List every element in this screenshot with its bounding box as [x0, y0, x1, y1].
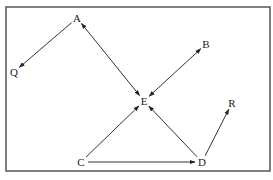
diagram-frame [6, 7, 270, 171]
edge-d-r [205, 109, 229, 156]
node-q: Q [10, 66, 18, 78]
edge-a-q [19, 23, 71, 68]
edge-a-e [81, 23, 139, 95]
graph-diagram: AQBERCD [0, 0, 273, 180]
node-a: A [73, 12, 81, 24]
node-e: E [141, 95, 148, 107]
edge-c-e [86, 106, 139, 157]
node-d: D [198, 156, 206, 168]
nodes: AQBERCD [10, 12, 236, 168]
edges [19, 23, 229, 162]
node-c: C [77, 156, 84, 168]
edge-d-e [149, 106, 197, 157]
node-r: R [228, 97, 236, 109]
edge-b-e [149, 49, 201, 97]
node-b: B [202, 38, 209, 50]
